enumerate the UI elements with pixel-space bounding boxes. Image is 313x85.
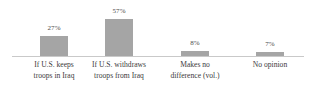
plot-area: 27% 57% 8% 7% bbox=[0, 0, 313, 57]
bar-2[interactable] bbox=[181, 51, 209, 56]
category-label-1: If U.S. withdraws troops from Iraq bbox=[76, 59, 162, 81]
bar-chart: 27% 57% 8% 7% If U.S. keeps troops in Ir… bbox=[0, 0, 313, 85]
bar-group-2: 8% bbox=[156, 0, 234, 57]
bar-value-label-1: 57% bbox=[112, 7, 125, 15]
bar-0[interactable] bbox=[40, 36, 68, 56]
category-label-1-line-2: troops from Iraq bbox=[76, 70, 162, 81]
category-label-3-line-1: No opinion bbox=[227, 59, 313, 70]
category-label-1-line-1: If U.S. withdraws bbox=[76, 59, 162, 70]
bar-value-label-2: 8% bbox=[190, 39, 200, 47]
category-label-2-line-2: difference (vol.) bbox=[152, 70, 238, 81]
bar-value-label-0: 27% bbox=[47, 24, 60, 32]
category-label-2-line-1: Makes no bbox=[152, 59, 238, 70]
bar-group-1: 57% bbox=[80, 0, 158, 57]
bar-3[interactable] bbox=[256, 52, 284, 56]
category-labels-row: If U.S. keeps troops in Iraq If U.S. wit… bbox=[0, 59, 313, 85]
category-label-3: No opinion bbox=[227, 59, 313, 70]
category-label-2: Makes no difference (vol.) bbox=[152, 59, 238, 81]
bar-1[interactable] bbox=[105, 19, 133, 56]
bar-group-3: 7% bbox=[231, 0, 309, 57]
bar-value-label-3: 7% bbox=[265, 40, 275, 48]
